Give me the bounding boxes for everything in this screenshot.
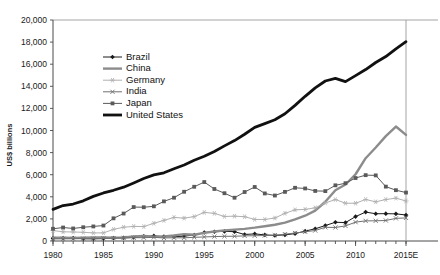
data-point-marker	[313, 189, 317, 193]
data-point-marker	[110, 55, 115, 60]
data-point-marker	[81, 230, 86, 235]
data-point-marker	[373, 200, 378, 205]
legend-item-india: India	[126, 85, 147, 96]
data-point-marker	[323, 189, 327, 193]
data-point-marker	[363, 210, 368, 215]
data-point-marker	[202, 210, 207, 215]
y-tick-label: 0	[42, 236, 47, 246]
series-india	[51, 216, 408, 241]
x-tick-label: 1995	[195, 250, 214, 260]
data-point-marker	[152, 204, 156, 208]
data-point-marker	[122, 212, 126, 216]
y-tick-label: 8,000	[26, 148, 48, 158]
data-point-marker	[110, 78, 115, 83]
data-point-marker	[384, 211, 389, 216]
y-tick-label: 10,000	[21, 126, 47, 136]
data-point-marker	[364, 173, 368, 177]
data-point-marker	[243, 190, 247, 194]
data-point-marker	[112, 216, 116, 220]
data-point-marker	[192, 214, 197, 219]
data-point-marker	[71, 230, 76, 235]
data-point-marker	[242, 214, 247, 219]
data-point-marker	[132, 205, 136, 209]
data-point-marker	[252, 217, 257, 222]
data-point-marker	[333, 220, 338, 225]
data-point-marker	[394, 188, 398, 192]
y-tick-label: 14,000	[21, 81, 47, 91]
data-point-marker	[292, 208, 297, 213]
data-point-marker	[353, 214, 358, 219]
data-point-marker	[354, 176, 358, 180]
y-tick-label: 12,000	[21, 103, 47, 113]
data-point-marker	[161, 218, 166, 223]
data-point-marker	[192, 185, 196, 189]
data-point-marker	[273, 194, 277, 198]
y-tick-label: 18,000	[21, 37, 47, 47]
data-point-marker	[404, 191, 408, 195]
data-point-marker	[141, 224, 146, 229]
gdp-line-chart: 02,0004,0006,0008,00010,00012,00014,0001…	[0, 0, 440, 275]
data-point-marker	[131, 224, 136, 229]
data-point-marker	[283, 233, 288, 238]
data-point-marker	[111, 102, 115, 106]
data-point-marker	[393, 196, 398, 201]
series-line	[53, 175, 406, 229]
y-tick-label: 20,000	[21, 15, 47, 25]
data-point-marker	[383, 197, 388, 202]
data-point-marker	[283, 190, 287, 194]
legend-item-united-states: United States	[126, 109, 183, 120]
data-point-marker	[374, 173, 378, 177]
x-tick-label: 1980	[44, 250, 63, 260]
legend-item-china: China	[126, 62, 152, 73]
y-tick-label: 4,000	[26, 192, 48, 202]
x-tick-label: 2010	[346, 250, 365, 260]
data-point-marker	[263, 192, 267, 196]
data-point-marker	[212, 187, 216, 191]
data-point-marker	[91, 231, 96, 236]
x-tick-label: 2015E	[394, 250, 419, 260]
data-point-marker	[262, 217, 267, 222]
data-point-marker	[223, 191, 227, 195]
legend-item-japan: Japan	[126, 97, 152, 108]
data-point-marker	[182, 190, 186, 194]
data-point-marker	[303, 187, 307, 191]
series-united-states	[53, 42, 406, 210]
data-point-marker	[282, 211, 287, 216]
y-tick-label: 16,000	[21, 59, 47, 69]
data-point-marker	[151, 221, 156, 226]
x-tick-label: 2005	[296, 250, 315, 260]
data-point-marker	[91, 225, 95, 229]
data-point-marker	[384, 185, 388, 189]
data-point-marker	[51, 227, 55, 231]
y-tick-label: 6,000	[26, 170, 48, 180]
x-tick-label: 1990	[144, 250, 163, 260]
y-tick-label: 2,000	[26, 214, 48, 224]
y-axis-title: US$ billions	[5, 124, 14, 167]
data-point-marker	[233, 196, 237, 200]
data-point-marker	[172, 196, 176, 200]
data-point-marker	[253, 185, 257, 189]
data-point-marker	[182, 216, 187, 221]
data-point-marker	[394, 212, 399, 217]
data-point-marker	[222, 214, 227, 219]
data-point-marker	[263, 233, 268, 238]
data-point-marker	[101, 231, 106, 236]
data-point-marker	[373, 211, 378, 216]
data-point-marker	[303, 207, 308, 212]
data-point-marker	[171, 215, 176, 220]
x-tick-label: 1985	[94, 250, 113, 260]
data-point-marker	[333, 197, 338, 202]
data-point-marker	[343, 201, 348, 206]
data-point-marker	[162, 199, 166, 203]
data-point-marker	[111, 227, 116, 232]
data-point-marker	[212, 211, 217, 216]
data-point-marker	[363, 197, 368, 202]
x-tick-label: 2000	[245, 250, 264, 260]
data-point-marker	[81, 225, 85, 229]
data-point-marker	[344, 181, 348, 185]
data-point-marker	[142, 205, 146, 209]
data-point-marker	[71, 227, 75, 231]
data-point-marker	[121, 225, 126, 230]
legend-item-germany: Germany	[126, 74, 165, 85]
data-point-marker	[202, 180, 206, 184]
